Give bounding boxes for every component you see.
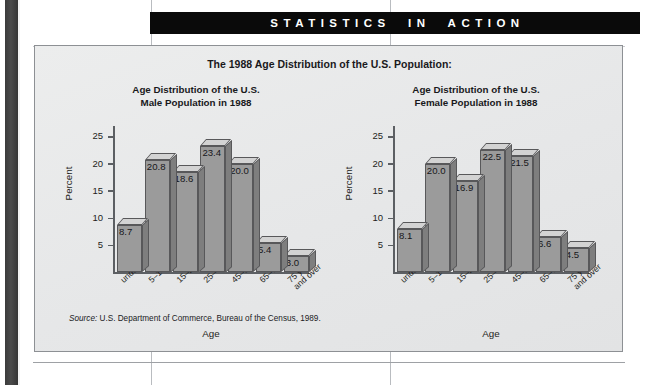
y-tick-female-25 [388, 136, 393, 137]
bar-value-label-female-2: 16.9 [455, 182, 474, 193]
bar-value-label-female-4: 21.5 [510, 157, 529, 168]
chart-title-male: Age Distribution of the U.S. Male Popula… [61, 84, 331, 109]
bar-side-face [198, 166, 205, 273]
rule-below-figure [33, 362, 625, 363]
page-spine-highlight [18, 0, 20, 385]
bar-female-0: 8.1 [397, 229, 422, 273]
y-tick-label-female-10: 10 [349, 212, 383, 223]
y-axis-line-male [113, 126, 115, 274]
y-tick-male-15 [108, 190, 113, 191]
y-tick-male-25 [108, 136, 113, 137]
bar-side-face [505, 144, 512, 272]
chart-title-male-line1: Age Distribution of the U.S. [132, 84, 259, 95]
bar-side-face [533, 150, 540, 273]
banner-title: STATISTICS IN ACTION [150, 12, 640, 34]
plot-area-female: Percent Age 510152025 8.120.016.922.521.… [341, 126, 611, 344]
bar-side-face [225, 140, 232, 273]
y-tick-label-male-20: 20 [69, 158, 103, 169]
y-tick-male-20 [108, 163, 113, 164]
bar-side-face [142, 219, 149, 272]
plot-area-male: Percent Age 510152025 8.720.818.623.420.… [61, 126, 331, 344]
y-tick-label-female-5: 5 [349, 239, 383, 250]
bar-value-label-male-0: 8.7 [119, 226, 132, 237]
bar-side-face [253, 158, 260, 272]
y-tick-male-5 [108, 245, 113, 246]
chart-title-female: Age Distribution of the U.S. Female Popu… [341, 84, 611, 109]
x-axis-label-female: Age [393, 328, 589, 339]
bar-side-face [422, 222, 429, 272]
y-tick-male-10 [108, 218, 113, 219]
bar-side-face [561, 231, 568, 273]
page-spine-band [5, 0, 18, 385]
y-tick-female-5 [388, 245, 393, 246]
y-tick-label-male-10: 10 [69, 212, 103, 223]
bar-value-label-female-3: 22.5 [482, 151, 501, 162]
bar-value-label-male-5: 5.4 [258, 244, 271, 255]
bar-male-0: 8.7 [117, 225, 142, 272]
bar-top-face [453, 174, 484, 181]
chart-title-female-line1: Age Distribution of the U.S. [412, 84, 539, 95]
bar-side-face [281, 237, 288, 272]
y-tick-label-male-25: 25 [69, 130, 103, 141]
chart-title-male-line2: Male Population in 1988 [140, 97, 251, 108]
y-tick-female-20 [388, 163, 393, 164]
y-axis-line-female [393, 126, 395, 274]
y-tick-label-female-25: 25 [349, 130, 383, 141]
source-note: Source: U.S. Department of Commerce, Bur… [69, 314, 321, 323]
bar-value-label-male-4: 20.0 [230, 165, 249, 176]
bar-side-face [450, 158, 457, 272]
chart-title-female-line2: Female Population in 1988 [414, 97, 537, 108]
bar-top-face [173, 165, 204, 172]
figure-title: The 1988 Age Distribution of the U.S. Po… [35, 58, 624, 70]
bar-value-label-male-3: 23.4 [202, 147, 221, 158]
bar-value-label-male-2: 18.6 [175, 173, 194, 184]
y-tick-label-male-5: 5 [69, 239, 103, 250]
bar-value-label-female-5: 6.6 [538, 238, 551, 249]
x-axis-label-male: Age [113, 328, 309, 339]
bar-side-face [478, 175, 485, 273]
statistics-in-action-banner: STATISTICS IN ACTION [150, 12, 640, 34]
chart-panel-female: Age Distribution of the U.S. Female Popu… [341, 84, 611, 344]
y-tick-label-male-15: 15 [69, 185, 103, 196]
bar-value-label-female-0: 8.1 [399, 230, 412, 241]
y-tick-female-10 [388, 218, 393, 219]
source-note-text: U.S. Department of Commerce, Bureau of t… [97, 314, 320, 323]
y-tick-female-15 [388, 190, 393, 191]
bar-side-face [170, 154, 177, 273]
chart-panel-male: Age Distribution of the U.S. Male Popula… [61, 84, 331, 344]
y-tick-label-female-15: 15 [349, 185, 383, 196]
bar-value-label-female-1: 20.0 [427, 165, 446, 176]
y-tick-label-female-20: 20 [349, 158, 383, 169]
bar-value-label-male-1: 20.8 [147, 161, 166, 172]
figure-container: The 1988 Age Distribution of the U.S. Po… [34, 45, 623, 352]
source-note-label: Source: [69, 314, 97, 323]
